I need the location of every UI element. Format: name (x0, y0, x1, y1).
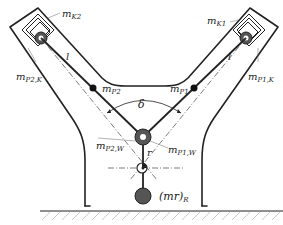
label-mP2K: mP2,K (16, 71, 43, 84)
label-mK1: mK1 (207, 15, 226, 28)
label-delta: δ (138, 98, 145, 111)
label-mP1K: mP1,K (248, 71, 275, 84)
lower-pivot (137, 163, 147, 173)
label-mr: (mr)R (159, 190, 189, 204)
mechanism-diagram: mK2 mK1 mP2,K mP1,K mP2 mP1 mP2,W mP1,W … (0, 0, 283, 225)
mass-p2 (90, 85, 97, 92)
label-mP2W: mP2,W (96, 140, 125, 153)
unbalance-mass (135, 188, 151, 204)
mass-p1 (191, 85, 198, 92)
label-mP1: mP1 (170, 83, 189, 96)
label-mP1W: mP1,W (168, 144, 197, 157)
label-l-left: l (66, 51, 69, 62)
ground (40, 211, 283, 220)
central-pivot (135, 129, 151, 145)
label-l-right: l (228, 51, 231, 62)
label-mK2: mK2 (62, 8, 82, 21)
